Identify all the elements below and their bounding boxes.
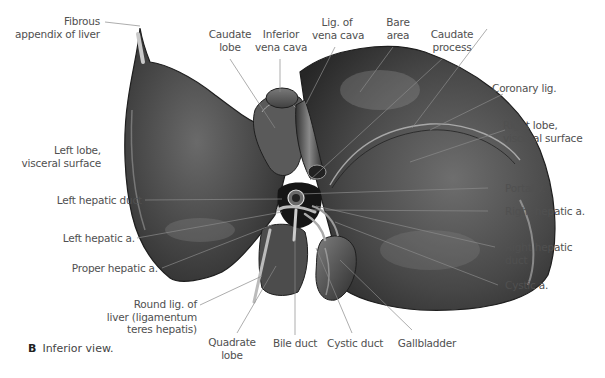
- label-left-hepatic-duct: Left hepatic duct: [57, 194, 142, 207]
- label-line: Quadrate: [207, 336, 257, 349]
- label-line: Round lig. of: [107, 298, 197, 311]
- label-line: Right hepatic: [505, 241, 572, 254]
- caption-text: Inferior view.: [42, 342, 113, 355]
- label-line: visceral surface: [503, 132, 582, 145]
- label-line: vena cava: [255, 41, 307, 54]
- label-line: process: [427, 41, 477, 54]
- label-line: Inferior: [255, 28, 307, 41]
- label-line: lobe: [205, 41, 255, 54]
- label-line: visceral surface: [22, 157, 101, 170]
- label-line: lobe: [207, 349, 257, 362]
- label-caudate-lobe: Caudate lobe: [205, 28, 255, 53]
- label-line: area: [383, 29, 413, 42]
- label-bile-duct: Bile duct: [270, 337, 320, 350]
- figure-caption: BInferior view.: [28, 342, 113, 355]
- label-gallbladder: Gallbladder: [397, 337, 457, 350]
- label-round-lig: Round lig. of liver (ligamentum teres he…: [107, 298, 197, 336]
- label-cystic-a: Cystic a.: [505, 279, 548, 292]
- label-line: teres hepatis): [107, 323, 197, 336]
- label-inferior-vena-cava: Inferior vena cava: [255, 28, 307, 53]
- label-cystic-duct: Cystic duct: [327, 337, 383, 350]
- label-line: Caudate: [205, 28, 255, 41]
- label-left-lobe: Left lobe, visceral surface: [22, 144, 101, 169]
- label-portal-v: Portal v.: [505, 182, 545, 195]
- label-quadrate-lobe: Quadrate lobe: [207, 336, 257, 361]
- label-line: vena cava: [312, 29, 362, 42]
- label-line: Caudate: [427, 28, 477, 41]
- label-fibrous-appendix: Fibrous appendix of liver: [15, 15, 100, 40]
- bile-duct: [294, 210, 296, 240]
- label-right-lobe: Right lobe, visceral surface: [503, 119, 582, 144]
- label-line: liver (ligamentum: [107, 311, 197, 324]
- label-line: Fibrous: [15, 15, 100, 28]
- label-line: appendix of liver: [15, 28, 100, 41]
- caption-letter: B: [28, 342, 36, 355]
- label-line: Left lobe,: [22, 144, 101, 157]
- label-line: Right lobe,: [503, 119, 582, 132]
- label-left-hepatic-a: Left hepatic a.: [63, 232, 135, 245]
- label-bare-area: Bare area: [383, 16, 413, 41]
- quadrate-lobe: [259, 224, 308, 295]
- label-proper-hepatic-a: Proper hepatic a.: [72, 262, 158, 275]
- label-lig-vena-cava: Lig. of vena cava: [312, 16, 362, 41]
- label-coronary-lig: Coronary lig.: [492, 82, 556, 95]
- label-caudate-process: Caudate process: [427, 28, 477, 53]
- label-line: duct: [505, 254, 572, 267]
- label-line: Bare: [383, 16, 413, 29]
- label-right-hepatic-duct: Right hepatic duct: [505, 241, 572, 266]
- label-right-hepatic-a: Right hepatic a.: [505, 205, 585, 218]
- label-line: Lig. of: [312, 16, 362, 29]
